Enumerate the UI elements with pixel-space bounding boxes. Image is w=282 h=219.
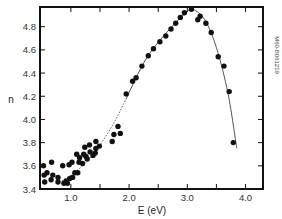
data-point: [163, 33, 168, 38]
x-tick-label: 1.0: [64, 192, 77, 203]
data-point: [49, 160, 54, 165]
data-point: [221, 63, 226, 68]
data-point: [231, 140, 236, 145]
data-point: [70, 175, 75, 180]
data-point: [227, 89, 232, 94]
y-axis-label: n: [8, 94, 14, 105]
data-point: [87, 142, 92, 147]
data-point: [216, 54, 221, 59]
figure-id-label: M60-B061219: [274, 36, 280, 74]
y-tick-label: 3.4: [23, 184, 36, 195]
y-tick-label: 4.0: [23, 114, 36, 125]
data-point: [93, 139, 98, 144]
data-point: [168, 26, 173, 31]
data-point: [209, 30, 214, 35]
fit-curve-solid: [126, 9, 237, 149]
y-tick-label: 4.2: [23, 91, 36, 102]
data-point: [93, 150, 98, 155]
data-point: [111, 132, 116, 137]
data-point: [85, 156, 90, 161]
data-point: [146, 53, 151, 58]
plot-area: [41, 7, 237, 186]
data-point: [72, 170, 77, 175]
y-tick-label: 4.6: [23, 44, 36, 55]
data-point: [48, 177, 53, 182]
data-point: [69, 160, 74, 165]
data-point: [178, 15, 183, 20]
x-tick-label: 4.0: [239, 192, 252, 203]
data-point: [157, 39, 162, 44]
data-point: [42, 179, 47, 184]
y-tick-label: 3.8: [23, 137, 36, 148]
data-point: [97, 143, 102, 148]
x-tick-label: 2.0: [122, 192, 135, 203]
data-point: [80, 161, 85, 166]
data-point: [63, 178, 68, 183]
data-point: [60, 163, 65, 168]
data-point: [203, 21, 208, 26]
data-point: [77, 155, 82, 160]
data-point: [118, 131, 123, 136]
y-tick-label: 3.6: [23, 160, 36, 171]
data-point: [124, 91, 129, 96]
y-tick-label: 4.4: [23, 68, 36, 79]
data-point: [55, 175, 60, 180]
data-point: [182, 10, 187, 15]
chart: 1.02.03.04.03.43.63.84.04.24.44.64.8 n E…: [0, 0, 282, 219]
data-point: [44, 170, 49, 175]
axes: 1.02.03.04.03.43.63.84.04.24.44.64.8: [23, 7, 263, 203]
data-point: [197, 14, 202, 19]
data-point: [151, 46, 156, 51]
data-point: [133, 75, 138, 80]
x-tick-label: 3.0: [181, 192, 194, 203]
data-point: [115, 124, 120, 129]
data-point: [55, 179, 60, 184]
data-point: [110, 139, 115, 144]
data-point: [82, 145, 87, 150]
data-point: [50, 172, 55, 177]
x-axis-label: E (eV): [138, 205, 166, 216]
y-tick-label: 4.8: [23, 21, 36, 32]
data-point: [173, 21, 178, 26]
data-point: [139, 63, 144, 68]
